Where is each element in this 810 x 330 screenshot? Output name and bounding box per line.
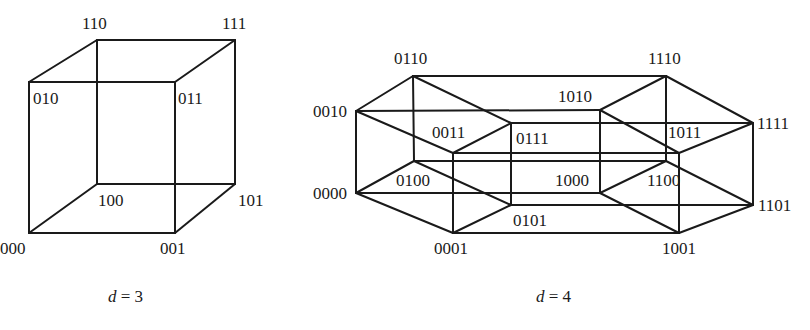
caption-d3: d = 3: [108, 287, 143, 306]
edge-0100-0110: [413, 76, 414, 161]
vertex-label-0100: 0100: [396, 171, 430, 190]
vertex-label-1111: 1111: [757, 114, 789, 133]
edge-1001-1101: [679, 205, 753, 233]
edge-0010-1010: [356, 110, 600, 111]
vertex-label-0101: 0101: [513, 211, 547, 230]
vertex-label-111: 111: [222, 14, 246, 33]
edge-0010-0110: [356, 76, 413, 111]
caption-d4-value: 4: [563, 287, 572, 306]
caption-d3-eq: =: [117, 287, 135, 306]
vertex-label-0000: 0000: [313, 184, 347, 203]
vertex-label-0111: 0111: [516, 129, 549, 148]
caption-d4-eq: =: [545, 287, 563, 306]
vertex-label-0110: 0110: [394, 49, 427, 68]
vertex-label-011: 011: [178, 89, 203, 108]
edge-011-111: [175, 40, 235, 82]
edge-1110-1111: [666, 76, 753, 123]
edge-1000-1001: [600, 193, 679, 233]
vertex-label-0010: 0010: [313, 102, 347, 121]
edge-0001-0101: [453, 205, 511, 233]
vertex-label-1011: 1011: [668, 123, 701, 142]
caption-d4: d = 4: [536, 287, 572, 306]
vertex-label-010: 010: [33, 89, 59, 108]
caption-d3-value: 3: [135, 287, 144, 306]
cube-d3-edges: [29, 40, 235, 233]
vertex-label-110: 110: [82, 14, 107, 33]
edge-0110-0111: [413, 76, 511, 123]
edge-000-100: [29, 184, 97, 233]
edge-001-101: [175, 184, 235, 233]
hypercube-d4-edges: [356, 76, 753, 233]
vertex-label-0011: 0011: [432, 123, 465, 142]
vertex-label-1000: 1000: [555, 171, 589, 190]
vertex-label-1101: 1101: [758, 196, 791, 215]
vertex-label-0001: 0001: [434, 239, 468, 258]
hypercube-d4: 1000100110101011110011011110111100000001…: [313, 49, 791, 306]
hypercube-diagram-canvas: 100101110111000001010011 d = 3 100010011…: [0, 0, 810, 330]
vertex-label-001: 001: [160, 239, 186, 258]
vertex-label-1001: 1001: [662, 239, 696, 258]
edge-1010-1110: [600, 76, 666, 110]
vertex-label-101: 101: [238, 191, 264, 210]
vertex-label-1110: 1110: [648, 49, 681, 68]
cube-d3-vertex-labels: 100101110111000001010011: [0, 14, 264, 258]
edge-010-110: [29, 40, 97, 82]
edge-0000-0001: [356, 193, 453, 233]
vertex-label-1100: 1100: [647, 171, 680, 190]
vertex-label-1010: 1010: [558, 87, 592, 106]
cube-d3: 100101110111000001010011 d = 3: [0, 14, 264, 306]
vertex-label-000: 000: [0, 239, 26, 258]
vertex-label-100: 100: [98, 191, 124, 210]
